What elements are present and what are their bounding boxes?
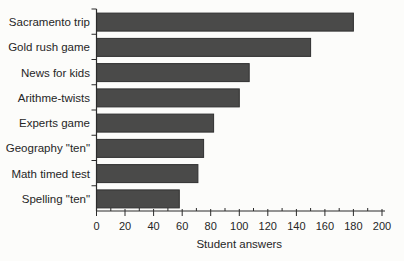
bar [97, 38, 311, 56]
bar [97, 165, 198, 183]
bar [97, 139, 204, 157]
x-tick-label: 160 [316, 220, 334, 232]
x-tick-label: 100 [230, 220, 248, 232]
bar [97, 13, 354, 31]
category-label: Arithme-twists [18, 92, 90, 104]
bar [97, 114, 214, 132]
x-tick-label: 120 [259, 220, 277, 232]
x-tick-label: 20 [119, 220, 131, 232]
x-tick-label: 180 [344, 220, 362, 232]
category-label: Experts game [19, 117, 90, 129]
bar-chart: Sacramento tripGold rush gameNews for ki… [0, 0, 404, 261]
bar [97, 89, 240, 107]
x-tick-label: 140 [287, 220, 305, 232]
category-label: Spelling "ten" [22, 193, 90, 205]
x-tick-label: 40 [147, 220, 159, 232]
bar-chart-figure: Sacramento tripGold rush gameNews for ki… [0, 0, 404, 261]
category-label: Sacramento trip [9, 16, 90, 28]
category-label: News for kids [21, 67, 90, 79]
x-tick-label: 60 [176, 220, 188, 232]
x-tick-label: 0 [93, 220, 99, 232]
x-tick-label: 80 [205, 220, 217, 232]
category-label: Geography "ten" [6, 142, 90, 154]
category-label: Gold rush game [8, 41, 90, 53]
bar [97, 64, 250, 82]
category-label: Math timed test [11, 168, 90, 180]
bar [97, 190, 180, 208]
x-tick-label: 200 [373, 220, 391, 232]
x-axis-title: Student answers [196, 238, 282, 250]
